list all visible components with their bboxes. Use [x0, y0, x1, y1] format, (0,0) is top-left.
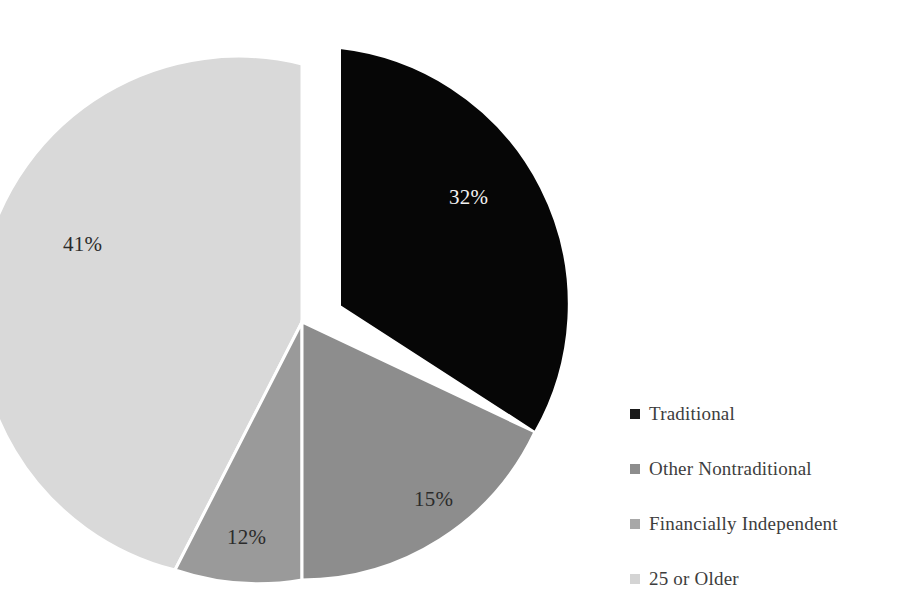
pie-chart-svg: [0, 0, 620, 611]
pie-chart-plot-area: 32% 15% 12% 41%: [0, 0, 620, 611]
legend-swatch-icon-financially-independent: [630, 519, 640, 529]
chart-legend: Traditional Other Nontraditional Financi…: [630, 386, 910, 606]
legend-swatch-icon-25-or-older: [630, 574, 640, 584]
legend-label-traditional: Traditional: [649, 404, 735, 423]
slice-value-label-traditional: 32%: [449, 185, 488, 210]
legend-label-25-or-older: 25 or Older: [649, 569, 739, 588]
legend-item-financially-independent[interactable]: Financially Independent: [630, 496, 910, 551]
slice-value-label-other-nontraditional: 15%: [414, 487, 453, 512]
slice-value-label-financially-independent: 12%: [227, 525, 266, 550]
slice-value-label-25-or-older: 41%: [63, 232, 102, 257]
legend-label-other-nontraditional: Other Nontraditional: [649, 459, 812, 478]
legend-swatch-icon-other-nontraditional: [630, 464, 640, 474]
chart-canvas: 32% 15% 12% 41% Traditional Other Nontra…: [0, 0, 913, 611]
legend-item-25-or-older[interactable]: 25 or Older: [630, 551, 910, 606]
legend-item-traditional[interactable]: Traditional: [630, 386, 910, 441]
legend-swatch-icon-traditional: [630, 409, 640, 419]
legend-label-financially-independent: Financially Independent: [649, 514, 838, 533]
legend-item-other-nontraditional[interactable]: Other Nontraditional: [630, 441, 910, 496]
